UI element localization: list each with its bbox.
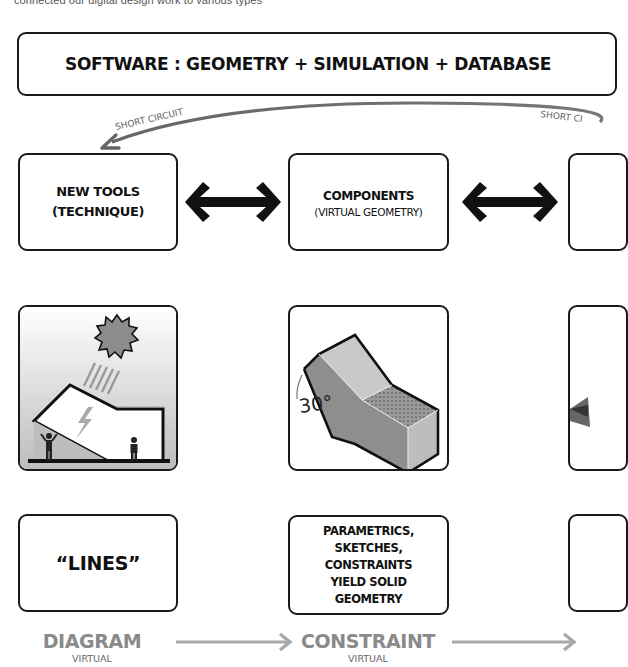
node-components: COMPONENTS (VIRTUAL GEOMETRY) — [288, 153, 449, 251]
node-parametrics-line: YIELD SOLID — [330, 574, 406, 591]
node-parametrics-line: PARAMETRICS, — [323, 523, 414, 540]
stage-constraint-label: CONSTRAINT — [298, 630, 438, 652]
node-lines-text: “LINES” — [56, 552, 141, 574]
node-solar-illustration — [18, 305, 178, 471]
node-lines: “LINES” — [18, 514, 178, 612]
node-new-tools-subtitle: (TECHNIQUE) — [52, 202, 144, 222]
node-solid-geometry-illustration: 30° — [288, 305, 449, 471]
node-components-title: COMPONENTS — [323, 186, 414, 206]
double-arrow-icon — [185, 180, 281, 224]
node-parametrics-line: SKETCHES, — [335, 540, 403, 557]
partial-illustration-icon — [570, 387, 600, 447]
short-circuit-curve: SHORT CIRCUIT SHORT CI — [0, 0, 586, 160]
angle-label: 30° — [297, 390, 333, 416]
short-circuit-right-label: SHORT CI — [540, 109, 583, 124]
node-parametrics: PARAMETRICS, SKETCHES, CONSTRAINTS YIELD… — [288, 515, 449, 615]
node-partial-right-3 — [568, 514, 628, 612]
solid-geometry-icon: 30° — [290, 307, 447, 469]
node-components-subtitle: (VIRTUAL GEOMETRY) — [314, 206, 422, 218]
node-partial-right-2 — [568, 305, 628, 471]
node-partial-right-1 — [568, 153, 628, 251]
node-new-tools-title: NEW TOOLS — [56, 182, 140, 202]
solar-building-icon — [20, 307, 176, 469]
stage-diagram-label: DIAGRAM — [32, 630, 152, 652]
flow-arrow-icon — [452, 632, 582, 652]
stage-constraint-sub: VIRTUAL — [298, 653, 438, 664]
node-parametrics-line: CONSTRAINTS — [325, 557, 412, 574]
flow-arrow-icon — [176, 632, 296, 652]
node-new-tools: NEW TOOLS (TECHNIQUE) — [18, 153, 178, 251]
node-parametrics-line: GEOMETRY — [335, 591, 403, 608]
short-circuit-left-label: SHORT CIRCUIT — [114, 107, 184, 132]
double-arrow-icon — [462, 180, 558, 224]
stage-diagram-sub: VIRTUAL — [32, 653, 152, 664]
